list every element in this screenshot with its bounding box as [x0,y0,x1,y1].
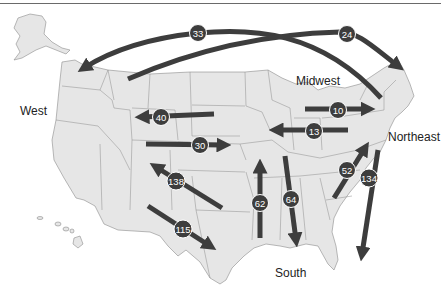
region-label-south: South [275,266,306,280]
badge-40: 40 [153,109,170,126]
arrow-30 [146,144,224,145]
svg-text:30: 30 [195,140,206,151]
us-map: 33 24 40 30 10 13 138 115 62 64 52 134 [0,0,447,301]
region-label-midwest: Midwest [296,74,340,88]
svg-text:62: 62 [255,198,266,209]
badge-62: 62 [252,195,269,212]
badge-52: 52 [339,162,356,179]
badge-33: 33 [190,25,207,42]
svg-text:52: 52 [342,165,353,176]
badge-138: 138 [167,172,185,190]
badge-10: 10 [330,102,347,119]
alaska [14,14,70,60]
svg-text:13: 13 [309,126,320,137]
badge-115: 115 [174,220,192,238]
svg-text:64: 64 [286,194,297,205]
badge-24: 24 [339,26,356,43]
badge-64: 64 [283,191,300,208]
svg-text:134: 134 [361,173,377,184]
badge-13: 13 [306,123,323,140]
svg-text:10: 10 [333,105,344,116]
region-label-west: West [20,104,47,118]
svg-text:40: 40 [156,112,167,123]
svg-text:33: 33 [193,28,204,39]
svg-text:24: 24 [342,29,353,40]
region-label-northeast: Northeast [388,130,440,144]
hawaii [37,217,83,249]
contiguous-us [52,60,414,284]
badge-30: 30 [192,137,209,154]
svg-text:138: 138 [168,176,184,187]
svg-text:115: 115 [175,224,190,235]
badge-134: 134 [360,169,378,187]
